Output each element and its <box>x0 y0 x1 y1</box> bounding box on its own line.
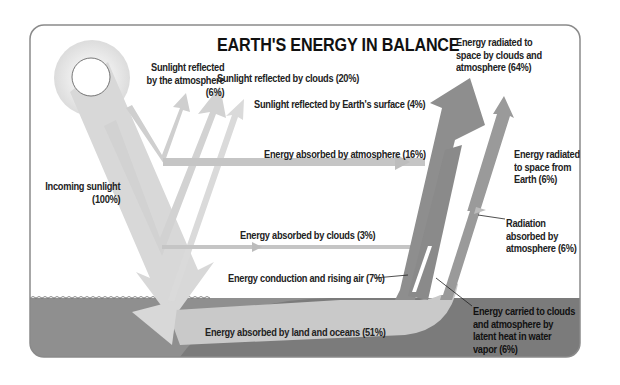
absorbed-clouds-arrow <box>162 245 424 249</box>
label-absorbed-clouds: Energy absorbed by clouds (3%) <box>240 229 375 242</box>
diagram-title: EARTH'S ENERGY IN BALANCE <box>217 34 459 56</box>
label-reflected-surface: Sunlight reflected by Earth's surface (4… <box>254 98 425 111</box>
label-absorbed-land-oceans: Energy absorbed by land and oceans (51%) <box>205 326 385 339</box>
label-conduction: Energy conduction and rising air (7%) <box>228 272 385 285</box>
label-latent-heat: Energy carried to clouds and atmosphere … <box>473 305 575 355</box>
sun-icon <box>72 58 110 96</box>
label-absorbed-atmosphere: Energy absorbed by atmosphere (16%) <box>264 148 426 161</box>
label-radiation-absorbed: Radiation absorbed by atmosphere (6%) <box>506 217 576 255</box>
label-reflected-atmosphere: Sunlight reflected by the atmosphere (6%… <box>146 61 224 99</box>
label-incoming-sunlight: Incoming sunlight (100%) <box>45 180 120 205</box>
label-radiated-clouds-atmosphere: Energy radiated to space by clouds and a… <box>456 36 542 74</box>
label-radiated-earth: Energy radiated to space from Earth (6%) <box>514 148 580 186</box>
label-reflected-clouds: Sunlight reflected by clouds (20%) <box>217 72 359 85</box>
